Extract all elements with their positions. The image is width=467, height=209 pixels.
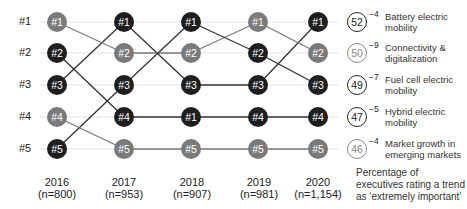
score-badge: 52	[347, 12, 367, 32]
year: 2017	[89, 176, 159, 188]
rank-node-label: #5	[252, 143, 264, 155]
rank-node-label: #1	[185, 16, 197, 28]
rank-label: #4	[19, 110, 43, 122]
score-delta: −9	[369, 40, 379, 50]
rank-node-label: #3	[118, 79, 130, 91]
score-delta: −5	[369, 104, 379, 114]
rank-node-label: #2	[185, 47, 197, 59]
rank-node-label: #5	[312, 143, 324, 155]
rank-node-label: #4	[312, 111, 324, 123]
rank-node-label: #3	[185, 79, 197, 91]
sample-size: (n=953)	[89, 188, 159, 200]
score-badge: 50	[347, 43, 367, 63]
score-badge: 49	[347, 75, 367, 95]
series-line	[57, 117, 124, 149]
rank-node-label: #1	[185, 111, 197, 123]
rank-node-label: #2	[118, 47, 130, 59]
rank-node-label: #4	[51, 111, 63, 123]
legend-label: Hybrid electric mobility	[385, 106, 467, 128]
series-line	[258, 53, 318, 85]
year-label: 2016 (n=800)	[22, 176, 92, 200]
rank-label: #5	[19, 142, 43, 154]
series-line	[57, 22, 124, 53]
legend-label: Fuel cell electric mobility	[385, 74, 467, 96]
legend-item-connectivity: 50 −9 Connectivity & digitalization	[345, 41, 467, 69]
score-delta: −4	[369, 9, 379, 19]
rank-node-label: #2	[312, 47, 324, 59]
legend-label: Connectivity & digitalization	[385, 42, 467, 64]
legend-label: Market growth in emerging markets	[385, 138, 467, 160]
rank-node-label: #1	[312, 16, 324, 28]
year-label: 2020 (n=1,154)	[283, 176, 353, 200]
year-label: 2018 (n=907)	[157, 176, 227, 200]
rank-node-label: #3	[312, 79, 324, 91]
rank-node-label: #3	[51, 79, 63, 91]
rank-node-label: #1	[118, 16, 130, 28]
series-line	[258, 22, 318, 53]
legend-item-fuel-cell: 49 −7 Fuel cell electric mobility	[345, 73, 467, 101]
legend-label: Battery electric mobility	[385, 11, 467, 33]
rank-node-label: #5	[118, 143, 130, 155]
legend-item-hybrid: 47 −5 Hybrid electric mobility	[345, 105, 467, 133]
year: 2020	[283, 176, 353, 188]
score-delta: −7	[369, 72, 379, 82]
score-delta: −4	[369, 136, 379, 146]
year: 2016	[22, 176, 92, 188]
sample-size: (n=1,154)	[283, 188, 353, 200]
rank-label: #2	[19, 46, 43, 58]
rank-label: #3	[19, 78, 43, 90]
rank-label: #1	[19, 15, 43, 27]
rank-node-label: #5	[185, 143, 197, 155]
rank-node-label: #1	[51, 16, 63, 28]
rank-node-label: #2	[51, 47, 63, 59]
legend-item-market-growth: 46 −4 Market growth in emerging markets	[345, 137, 467, 165]
sample-size: (n=907)	[157, 188, 227, 200]
rank-node-label: #2	[252, 47, 264, 59]
score-badge: 47	[347, 107, 367, 127]
legend-item-battery-electric: 52 −4 Battery electric mobility	[345, 10, 467, 38]
rank-node-label: #1	[252, 16, 264, 28]
rank-node-label: #3	[252, 79, 264, 91]
rank-node-label: #5	[51, 143, 63, 155]
rank-node-label: #4	[252, 111, 264, 123]
chart-footnote: Percentage of executives rating a trend …	[356, 167, 467, 203]
year-label: 2017 (n=953)	[89, 176, 159, 200]
sample-size: (n=800)	[22, 188, 92, 200]
score-badge: 46	[347, 139, 367, 159]
rank-node-label: #4	[118, 111, 130, 123]
year: 2018	[157, 176, 227, 188]
